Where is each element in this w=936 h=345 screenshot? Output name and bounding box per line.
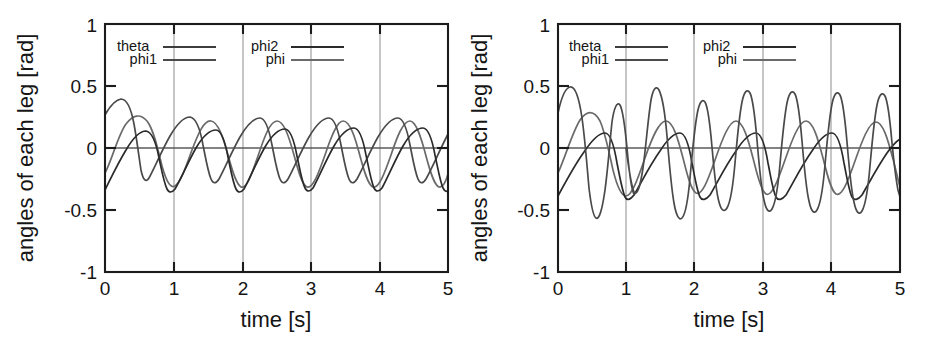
x-tick-label-5-left: 5 <box>443 278 454 299</box>
legend-label-phi1-left: phi1 <box>130 51 157 67</box>
x-tick-label-1-left: 1 <box>169 278 180 299</box>
y-tick-label-neg1-left: -1 <box>80 262 97 283</box>
y-tick-label-neg1-right: -1 <box>533 262 550 283</box>
x-tick-label-0-left: 0 <box>100 278 111 299</box>
y-tick-label-0-right: 0 <box>539 138 550 159</box>
chart-panel-right: angles of each leg [rad] 1 0.5 0 -0.5 -1… <box>468 0 936 345</box>
series-phi-left <box>105 116 448 187</box>
y-tick-label-0p5-right: 0.5 <box>524 76 550 97</box>
x-tick-label-4-right: 4 <box>826 278 837 299</box>
y-tick-label-0p5-left: 0.5 <box>71 76 97 97</box>
x-tick-label-0-right: 0 <box>553 278 564 299</box>
x-tick-label-4-left: 4 <box>375 278 386 299</box>
legend-left: theta phi1 phi2 phi <box>117 38 344 67</box>
x-tick-label-1-right: 1 <box>621 278 632 299</box>
x-tick-label-5-right: 5 <box>895 278 906 299</box>
y-tick-label-neg0p5-left: -0.5 <box>64 200 97 221</box>
y-tick-label-1-left: 1 <box>86 15 97 36</box>
x-tick-label-2-right: 2 <box>689 278 700 299</box>
legend-label-phi-right: phi <box>718 51 737 67</box>
legend-label-phi-left: phi <box>266 51 285 67</box>
x-tick-label-3-left: 3 <box>306 278 317 299</box>
y-axis-title-left: angles of each leg [rad] <box>13 34 38 263</box>
y-tick-label-0-left: 0 <box>86 138 97 159</box>
y-axis-title-right: angles of each leg [rad] <box>468 34 492 263</box>
x-axis-title-right: time [s] <box>694 307 765 332</box>
x-tick-label-3-right: 3 <box>758 278 769 299</box>
x-axis-title-left: time [s] <box>241 307 312 332</box>
chart-panel-left: angles of each leg [rad] 1 0.5 0 -0.5 -1… <box>0 0 468 345</box>
x-tick-label-2-left: 2 <box>238 278 249 299</box>
series-phi1-right <box>558 87 900 219</box>
figure-two-panel-row: angles of each leg [rad] 1 0.5 0 -0.5 -1… <box>0 0 936 345</box>
y-tick-label-neg0p5-right: -0.5 <box>517 200 550 221</box>
legend-right: theta phi1 phi2 phi <box>569 38 796 67</box>
legend-label-phi1-right: phi1 <box>582 51 609 67</box>
y-tick-label-1-right: 1 <box>539 15 550 36</box>
